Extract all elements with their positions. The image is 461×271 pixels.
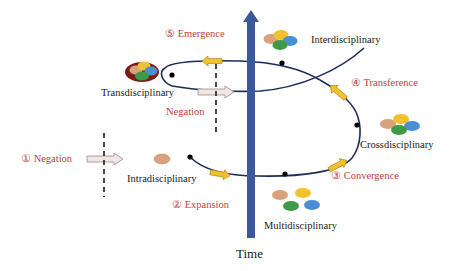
multi-ellipses-icon: [272, 188, 320, 211]
cross-ellipses-icon: [380, 114, 420, 135]
process-arrows: [202, 56, 349, 181]
label-crossdisciplinary: Crossdisciplinary: [360, 139, 434, 151]
intra-ellipse-icon: [154, 154, 170, 164]
dot-multi: [282, 171, 287, 176]
negation-arrow-1-icon: [87, 153, 123, 165]
diagram-canvas: [0, 0, 461, 271]
time-axis-label: Time: [236, 248, 263, 260]
label-convergence: ③ Convergence: [331, 170, 399, 182]
label-transference: ④ Transference: [351, 77, 418, 89]
dot-trans: [169, 72, 174, 77]
label-intradisciplinary: Intradisciplinary: [127, 173, 196, 185]
inter-ellipses-icon: [264, 30, 298, 50]
label-interdisciplinary: Interdisciplinary: [311, 34, 380, 46]
dot-inter: [279, 60, 284, 65]
time-arrow-icon: [243, 10, 259, 238]
spiral-dots: [169, 60, 359, 176]
trans-ellipses-icon: [125, 62, 159, 83]
label-expansion: ② Expansion: [172, 199, 229, 211]
label-transdisciplinary: Transdisciplinary: [101, 87, 174, 99]
label-negation-2: Negation: [166, 106, 205, 118]
label-multidisciplinary: Multidisciplinary: [264, 220, 337, 232]
label-negation-1: ① Negation: [21, 153, 72, 165]
emergence-arrow-icon: [202, 56, 222, 66]
dot-intra: [187, 154, 192, 159]
dot-cross: [354, 122, 359, 127]
label-emergence: ⑤ Emergence: [165, 28, 225, 40]
